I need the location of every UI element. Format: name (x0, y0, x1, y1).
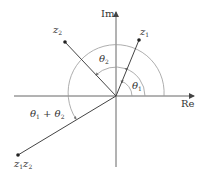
complex-plane-diagram: Im Re z1 z2 z1z2 θ1 θ2 θ1 + θ2 (0, 0, 206, 172)
z1-point (137, 38, 141, 42)
theta1-label: θ1 (132, 80, 142, 92)
z1-label: z1 (139, 26, 149, 38)
z1z2-vector (18, 96, 116, 155)
z1z2-point (16, 153, 20, 157)
theta2-arc (96, 67, 125, 75)
theta1-small-arc (121, 81, 132, 96)
imaginary-axis-label: Im (101, 8, 115, 19)
z2-label: z2 (52, 24, 62, 36)
z2-point (63, 40, 67, 44)
theta2-label: θ2 (99, 53, 109, 65)
real-axis-label: Re (181, 98, 195, 109)
z2-vector (65, 42, 116, 96)
z1z2-label: z1z2 (13, 158, 32, 170)
theta-sum-label: θ1 + θ2 (30, 108, 65, 120)
